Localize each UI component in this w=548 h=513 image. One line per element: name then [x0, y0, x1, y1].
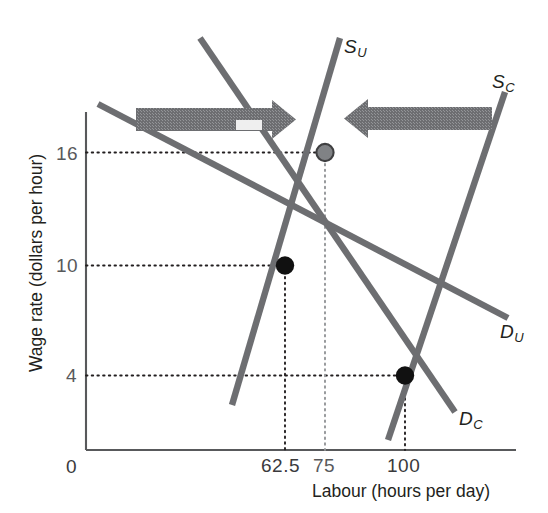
curve-label-su-base: S — [344, 36, 357, 57]
x-tick-62-5: 62.5 — [261, 455, 300, 477]
demand-shift-arrow — [344, 99, 492, 138]
y-tick-4: 4 — [66, 365, 77, 387]
curve-label-du: DU — [500, 321, 523, 343]
x-axis-title: Labour (hours per day) — [312, 481, 490, 502]
curve-label-dc-base: D — [459, 408, 473, 429]
reduced-demand-point — [396, 366, 414, 384]
wage-rate-labour-chart: Wage rate (dollars per hour) 16 10 4 0 6… — [0, 0, 548, 513]
y-tick-10: 10 — [56, 255, 78, 277]
curve-label-dc: DC — [459, 408, 482, 430]
curve-label-sc: SC — [492, 71, 514, 93]
curve-label-su: SU — [344, 36, 366, 58]
chart-canvas — [0, 0, 548, 513]
curve-label-sc-sub: C — [505, 80, 514, 95]
competitive-equilibrium-point — [276, 256, 294, 274]
y-tick-16: 16 — [56, 143, 78, 165]
union-equilibrium-point — [316, 144, 333, 161]
curve-label-du-sub: U — [514, 330, 523, 345]
x-tick-75: 75 — [313, 455, 335, 477]
y-axis-title: Wage rate (dollars per hour) — [26, 154, 47, 372]
curve-label-sc-base: S — [492, 71, 505, 92]
origin-label: 0 — [66, 456, 77, 478]
curve-label-su-sub: U — [357, 45, 366, 60]
curve-label-du-base: D — [500, 321, 514, 342]
curve-label-dc-sub: C — [473, 417, 482, 432]
x-tick-100: 100 — [387, 455, 420, 477]
curve-du — [98, 104, 508, 318]
droplines — [86, 153, 405, 451]
